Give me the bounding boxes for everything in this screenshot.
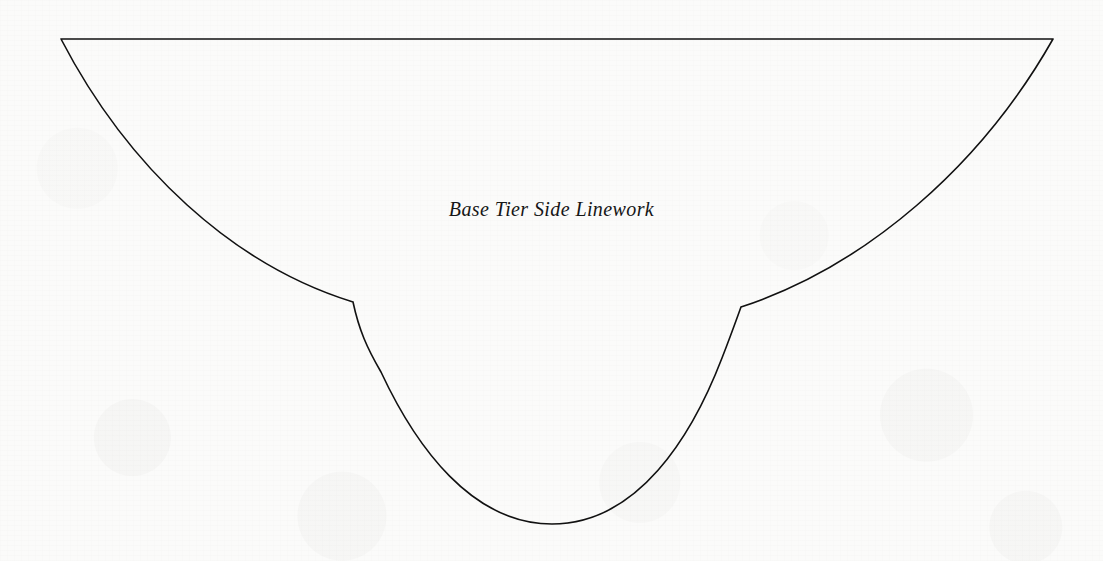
base-tier-side-linework-drawing — [0, 0, 1103, 561]
drawing-sheet: Base Tier Side Linework — [0, 0, 1103, 561]
drawing-caption: Base Tier Side Linework — [0, 198, 1103, 221]
base-tier-side-profile-path — [61, 39, 1053, 524]
